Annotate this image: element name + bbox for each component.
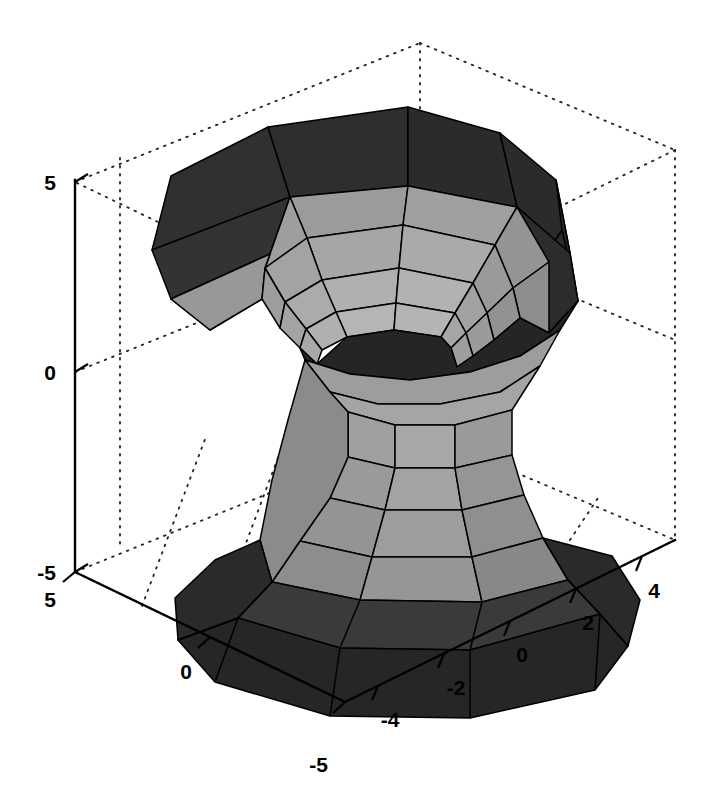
facet	[395, 425, 455, 468]
x-label-4: 4	[648, 579, 660, 602]
x-label-m2: -2	[447, 676, 466, 699]
facet	[360, 557, 482, 602]
x-label-2: 2	[582, 611, 594, 634]
facet	[372, 510, 472, 557]
z-tick-m5	[75, 564, 88, 572]
hyperboloid-surface	[152, 107, 640, 718]
z-tick-0	[75, 364, 88, 372]
z-label-0: 0	[44, 361, 56, 384]
y-label-5: 5	[44, 588, 56, 611]
z-tick-5	[75, 174, 88, 182]
x-label-m4: -4	[381, 708, 400, 731]
facet	[268, 107, 408, 197]
facet	[385, 468, 462, 510]
y-label-0: 0	[180, 660, 192, 683]
y-tick-5	[63, 572, 75, 582]
z-label-m5: -5	[37, 561, 56, 584]
x-label-0: 0	[516, 643, 528, 666]
z-label-5: 5	[44, 171, 56, 194]
surface-plot: 5 0 -5 5 0 -5 -4 -2 0 2 4	[0, 0, 714, 811]
y-label-m5: -5	[309, 753, 328, 776]
figure-canvas: 5 0 -5 5 0 -5 -4 -2 0 2 4	[0, 0, 714, 811]
